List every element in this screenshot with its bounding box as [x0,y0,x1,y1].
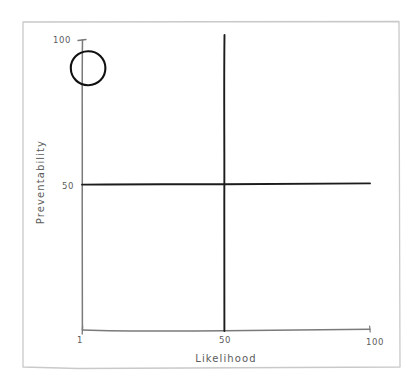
page-border [23,22,400,369]
x-axis-title: Likelihood [195,353,256,364]
x-tick-label-50: 50 [219,335,231,345]
x-tick-label-1: 1 [77,335,83,345]
y-axis-tick-100 [78,40,86,41]
x-tick-label-100: 100 [366,337,384,347]
chart-canvas: 100 50 1 50 100 Likelihood Preventabilit… [0,0,420,386]
risk-matrix-chart: 100 50 1 50 100 Likelihood Preventabilit… [0,0,420,386]
y-tick-label-50: 50 [62,181,74,191]
y-tick-label-100: 100 [53,35,71,45]
data-point-marker[interactable] [71,51,106,85]
x-axis-line [83,329,371,331]
y-axis-title: Preventability [35,140,46,224]
quadrant-line-horizontal [82,183,370,184]
x-axis-tick-100 [370,326,371,332]
